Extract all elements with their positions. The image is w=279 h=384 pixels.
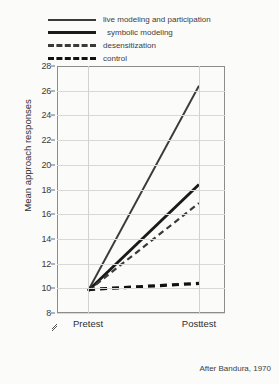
legend-item-symbolic-modeling: symbolic modeling <box>48 26 248 39</box>
y-tick-label: 26 <box>41 86 51 96</box>
y-tick-mark <box>51 115 55 116</box>
y-axis-ticks: 282624222018161412108 <box>0 66 55 313</box>
y-tick-label: 16 <box>41 209 51 219</box>
series-line <box>88 185 199 291</box>
x-tick-label-pretest: Pretest <box>73 318 103 329</box>
y-tick-label: 18 <box>41 185 51 195</box>
legend-label: symbolic modeling <box>96 28 173 37</box>
y-tick-mark <box>51 66 55 67</box>
series-line <box>88 86 199 291</box>
y-tick-mark <box>51 140 55 141</box>
legend-swatch-solid-thick-icon <box>48 31 96 34</box>
y-tick-label: 12 <box>41 259 51 269</box>
legend-swatch-dashed-thin-icon <box>48 44 96 47</box>
y-tick-mark <box>51 288 55 289</box>
plot-area <box>57 66 225 313</box>
legend-label: live modeling and participation <box>96 15 211 24</box>
gridline-vertical <box>88 66 89 313</box>
legend-swatch-solid-thin-icon <box>48 19 96 21</box>
y-tick-mark <box>51 238 55 239</box>
gridline-horizontal <box>57 313 225 314</box>
y-tick-label: 10 <box>41 283 51 293</box>
y-tick-mark <box>51 164 55 165</box>
y-tick-label: 14 <box>41 234 51 244</box>
y-tick-mark <box>51 214 55 215</box>
y-tick-mark <box>51 90 55 91</box>
y-tick-mark <box>51 263 55 264</box>
y-tick-label: 22 <box>41 135 51 145</box>
legend-label: desensitization <box>96 41 156 50</box>
y-tick-label: 20 <box>41 160 51 170</box>
y-tick-mark <box>51 189 55 190</box>
y-tick-label: 28 <box>41 61 51 71</box>
y-tick-label: 24 <box>41 110 51 120</box>
legend-label: control <box>96 54 127 63</box>
legend-item-control: control <box>48 52 248 65</box>
legend-item-live-modeling: live modeling and participation <box>48 13 248 26</box>
chart-legend: live modeling and participation symbolic… <box>48 13 248 65</box>
figure-caption: After Bandura, 1970 <box>199 364 271 373</box>
legend-swatch-dashed-thick-icon <box>48 57 96 60</box>
x-tick-label-posttest: Posttest <box>182 318 216 329</box>
gridline-vertical <box>199 66 200 313</box>
y-tick-mark <box>51 313 55 314</box>
legend-item-desensitization: desensitization <box>48 39 248 52</box>
axis-break-icon <box>51 320 63 332</box>
figure: live modeling and participation symbolic… <box>0 0 279 384</box>
series-line <box>88 203 199 291</box>
